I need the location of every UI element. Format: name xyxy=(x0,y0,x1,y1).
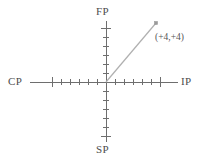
axis-label-ip: IP xyxy=(181,76,192,87)
ray-endpoint-marker xyxy=(154,21,157,24)
axes-canvas xyxy=(0,0,203,164)
axis-label-fp: FP xyxy=(96,6,109,17)
axis-label-cp: CP xyxy=(8,76,22,87)
axis-label-sp: SP xyxy=(96,144,109,155)
coordinate-axes-diagram: CP IP FP SP (+4,+4) xyxy=(0,0,203,164)
ray-line xyxy=(106,23,156,82)
value-ray xyxy=(106,21,158,82)
point-coordinate-label: (+4,+4) xyxy=(155,33,184,43)
